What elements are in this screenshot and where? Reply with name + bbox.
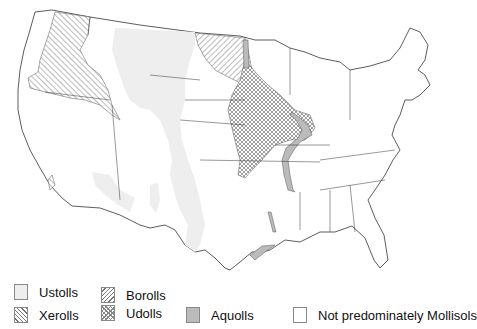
none-swatch-icon <box>293 307 307 323</box>
legend-label: Aquolls <box>211 308 254 323</box>
legend-item-udolls: Udolls <box>101 305 162 321</box>
legend-item-ustolls: Ustolls <box>14 284 78 300</box>
xerolls-swatch-icon <box>14 307 28 323</box>
ustolls-swatch-icon <box>14 284 28 300</box>
legend-item-xerolls: Xerolls <box>14 307 79 323</box>
aquolls-region-nd <box>243 40 249 68</box>
aquolls-swatch-icon <box>186 307 200 323</box>
legend-label: Ustolls <box>39 285 78 300</box>
legend-label: Xerolls <box>39 308 79 323</box>
legend-item-none: Not predominately Mollisols <box>293 307 477 323</box>
borolls-swatch-icon <box>101 287 115 303</box>
legend-item-aquolls: Aquolls <box>186 307 254 323</box>
legend-label: Borolls <box>126 288 166 303</box>
legend-label: Not predominately Mollisols <box>318 308 477 323</box>
legend-label: Udolls <box>126 306 162 321</box>
legend-item-borolls: Borolls <box>101 287 166 303</box>
udolls-swatch-icon <box>101 305 115 321</box>
